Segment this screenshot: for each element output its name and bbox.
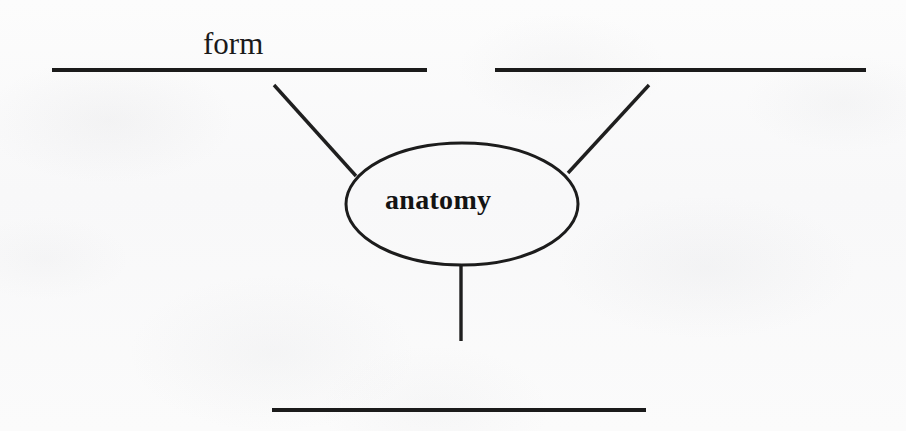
connector-upper-left — [274, 85, 356, 176]
center-node-label: anatomy — [385, 184, 491, 216]
diagram-page: anatomy form — [0, 0, 906, 431]
answer-label-form: form — [203, 26, 263, 62]
connector-upper-right — [568, 85, 649, 173]
